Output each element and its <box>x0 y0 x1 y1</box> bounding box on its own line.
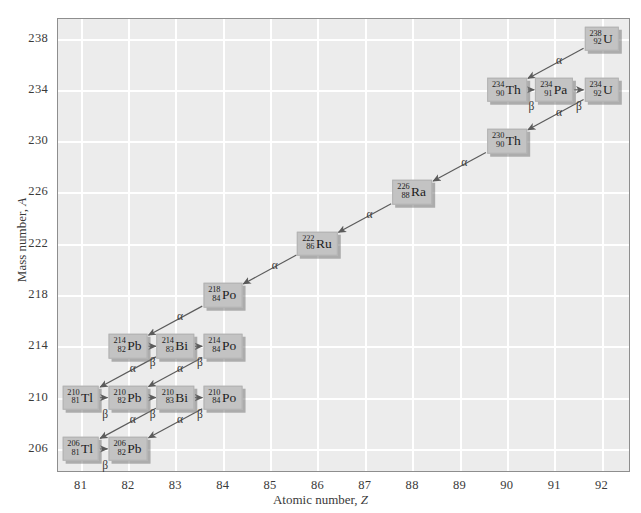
decay-arrow-alpha-ra226-to-rn222 <box>338 204 391 233</box>
decay-label-beta: β <box>197 408 203 420</box>
element-symbol: U <box>603 31 613 45</box>
atomic-number: 92 <box>593 89 601 98</box>
x-tick-label: 92 <box>582 478 622 493</box>
nuclide-box-pb206: 20682Pb <box>109 437 148 462</box>
decay-arrow-alpha-bi214-to-tl210 <box>100 357 156 387</box>
nuclide-box-po210: 21084Po <box>203 385 242 410</box>
decay-label-alpha: α <box>272 259 278 271</box>
x-tick-label: 87 <box>345 478 385 493</box>
nuclide-box-u238: 23892U <box>584 26 618 51</box>
nuclide-box-rn222: 22286Ru <box>297 231 337 256</box>
atomic-number: 84 <box>212 295 220 304</box>
nuclide-box-pa234: 23491Pa <box>535 78 573 103</box>
decay-label-alpha: α <box>177 362 183 374</box>
nuclide-numbers: 23892 <box>589 29 601 47</box>
decay-label-alpha: α <box>130 413 136 425</box>
y-tick-label: 206 <box>2 441 48 456</box>
element-symbol: Th <box>506 134 521 148</box>
x-tick-label: 86 <box>297 478 337 493</box>
atomic-number: 86 <box>306 243 314 252</box>
nuclide-box-bi210: 21083Bi <box>157 385 194 410</box>
atomic-number: 81 <box>71 448 79 457</box>
decay-chain-figure: 23892U23490Th23491Pa23492U23090Th22688Ra… <box>0 0 641 513</box>
decay-label-beta: β <box>102 459 108 471</box>
nuclide-numbers: 21081 <box>67 388 79 406</box>
y-tick-label: 214 <box>2 338 48 353</box>
element-symbol: Po <box>222 339 236 353</box>
nuclide-numbers: 21082 <box>114 388 126 406</box>
nuclide-numbers: 23491 <box>540 81 552 99</box>
atomic-number: 90 <box>496 89 504 98</box>
decay-label-alpha: α <box>461 156 467 168</box>
y-tick-label: 210 <box>2 390 48 405</box>
atomic-number: 81 <box>71 397 79 406</box>
decay-arrow-alpha-bi210-to-tl206 <box>100 408 156 438</box>
x-axis-label-text: Atomic number, <box>273 492 361 507</box>
nuclide-box-pb214: 21482Pb <box>109 334 148 359</box>
nuclide-numbers: 22688 <box>397 183 409 201</box>
element-symbol: Bi <box>175 390 188 404</box>
atomic-number: 82 <box>118 346 126 355</box>
y-axis-label: Mass number, A <box>14 140 30 340</box>
decay-label-alpha: α <box>556 54 562 66</box>
x-tick-label: 81 <box>61 478 101 493</box>
x-tick-label: 89 <box>440 478 480 493</box>
decay-label-beta: β <box>102 408 108 420</box>
decay-label-alpha: α <box>367 208 373 220</box>
y-axis-label-text: Mass number, <box>14 206 29 282</box>
element-symbol: Po <box>222 288 236 302</box>
x-tick-label: 83 <box>155 478 195 493</box>
decay-label-beta: β <box>150 356 156 368</box>
element-symbol: U <box>603 83 613 97</box>
y-axis-label-symbol: A <box>14 198 29 206</box>
nuclide-numbers: 20682 <box>114 440 126 458</box>
element-symbol: Tl <box>81 442 93 456</box>
element-symbol: Bi <box>175 339 188 353</box>
element-symbol: Th <box>506 83 521 97</box>
nuclide-numbers: 21884 <box>208 286 220 304</box>
nuclide-box-th230: 23090Th <box>487 129 527 154</box>
atomic-number: 82 <box>118 448 126 457</box>
x-axis-label-symbol: Z <box>361 492 368 507</box>
nuclide-numbers: 21484 <box>208 337 220 355</box>
atomic-number: 88 <box>401 192 409 201</box>
atomic-number: 84 <box>212 397 220 406</box>
nuclide-box-bi214: 21483Bi <box>157 334 194 359</box>
decay-label-beta: β <box>576 100 582 112</box>
element-symbol: Pb <box>127 390 141 404</box>
x-tick-label: 90 <box>487 478 527 493</box>
atomic-number: 91 <box>544 89 552 98</box>
nuclide-numbers: 21483 <box>162 337 174 355</box>
nuclide-numbers: 23490 <box>492 81 504 99</box>
nuclide-box-tl210: 21081Tl <box>62 385 99 410</box>
y-tick-label: 234 <box>2 82 48 97</box>
nuclide-box-po218: 21884Po <box>203 283 242 308</box>
nuclide-numbers: 20681 <box>67 440 79 458</box>
element-symbol: Po <box>222 390 236 404</box>
decay-arrow-alpha-rn222-to-po218 <box>243 255 296 284</box>
decay-arrow-alpha-po218-to-pb214 <box>149 306 203 335</box>
element-symbol: Ru <box>316 236 332 250</box>
nuclide-box-th234: 23490Th <box>487 78 527 103</box>
decay-label-beta: β <box>150 408 156 420</box>
nuclide-numbers: 21084 <box>208 388 220 406</box>
nuclide-numbers: 23090 <box>492 132 504 150</box>
nuclide-box-po214: 21484Po <box>203 334 242 359</box>
decay-label-beta: β <box>529 100 535 112</box>
decay-label-alpha: α <box>177 310 183 322</box>
element-symbol: Pb <box>127 442 141 456</box>
nuclide-box-tl206: 20681Tl <box>62 437 99 462</box>
element-symbol: Pa <box>554 83 568 97</box>
atomic-number: 84 <box>212 346 220 355</box>
x-tick-label: 85 <box>250 478 290 493</box>
atomic-number: 83 <box>166 346 174 355</box>
x-tick-label: 88 <box>392 478 432 493</box>
decay-arrow-alpha-th230-to-ra226 <box>433 152 486 181</box>
nuclide-box-pb210: 21082Pb <box>109 385 148 410</box>
decay-label-alpha: α <box>130 362 136 374</box>
nuclide-numbers: 22286 <box>302 234 314 252</box>
atomic-number: 92 <box>593 38 601 47</box>
decay-arrow-alpha-po214-to-pb210 <box>149 357 203 386</box>
element-symbol: Pb <box>127 339 141 353</box>
decay-arrow-alpha-po210-to-pb206 <box>149 409 203 438</box>
